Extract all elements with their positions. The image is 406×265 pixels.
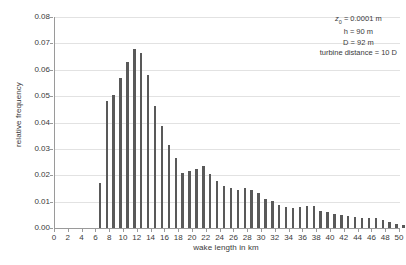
bar xyxy=(368,218,370,228)
x-tick-label: 12 xyxy=(132,234,141,242)
bar xyxy=(388,222,390,228)
y-tick-mark xyxy=(50,202,53,203)
bar xyxy=(147,75,149,228)
x-tick-mark xyxy=(95,229,96,232)
x-tick-label: 10 xyxy=(119,234,128,242)
x-tick-label: 38 xyxy=(312,234,321,242)
y-tick-mark xyxy=(50,228,53,229)
x-tick-label: 0 xyxy=(52,234,56,242)
bar xyxy=(216,181,218,228)
bar xyxy=(112,95,114,228)
x-tick-mark xyxy=(192,229,193,232)
bar xyxy=(237,190,239,228)
bar xyxy=(319,211,321,228)
x-tick-mark xyxy=(275,229,276,232)
bar xyxy=(257,193,259,228)
bar xyxy=(278,205,280,228)
x-tick-mark xyxy=(344,229,345,232)
bar xyxy=(223,186,225,228)
x-tick-mark xyxy=(137,229,138,232)
y-tick-label: 0.04 xyxy=(18,119,50,127)
x-tick-mark xyxy=(109,229,110,232)
bar xyxy=(375,218,377,228)
bar xyxy=(333,214,335,228)
bar xyxy=(250,190,252,228)
bar xyxy=(126,62,128,228)
annotation-line-roughness-length: z0 = 0.0001 m xyxy=(320,14,397,27)
x-tick-mark xyxy=(399,229,400,232)
bar xyxy=(195,169,197,228)
x-tick-mark xyxy=(82,229,83,232)
x-tick-mark xyxy=(289,229,290,232)
bar xyxy=(326,212,328,228)
x-tick-label: 24 xyxy=(215,234,224,242)
x-tick-mark xyxy=(316,229,317,232)
x-tick-mark xyxy=(302,229,303,232)
bar xyxy=(175,158,177,228)
bar xyxy=(133,49,135,228)
x-tick-label: 36 xyxy=(298,234,307,242)
x-axis-tick-labels: 0246810121416182022242628303234363840424… xyxy=(54,229,399,243)
y-tick-mark xyxy=(50,96,53,97)
bar xyxy=(354,217,356,228)
x-tick-label: 40 xyxy=(326,234,335,242)
x-tick-label: 26 xyxy=(229,234,238,242)
bar xyxy=(313,206,315,228)
y-tick-mark xyxy=(50,149,53,150)
bar xyxy=(230,188,232,228)
x-tick-label: 34 xyxy=(284,234,293,242)
x-tick-label: 50 xyxy=(395,234,404,242)
y-tick-mark xyxy=(50,17,53,18)
histogram-figure: relative frequency 0.000.010.020.030.040… xyxy=(0,0,406,265)
bar xyxy=(106,101,108,228)
x-tick-label: 8 xyxy=(107,234,111,242)
annotation-line-hub-height: h = 90 m xyxy=(320,27,397,38)
bar xyxy=(361,218,363,228)
y-tick-label: 0.01 xyxy=(18,198,50,206)
x-tick-mark xyxy=(233,229,234,232)
x-tick-mark xyxy=(123,229,124,232)
x-tick-label: 46 xyxy=(367,234,376,242)
x-tick-mark xyxy=(385,229,386,232)
bar xyxy=(99,183,101,228)
x-tick-label: 4 xyxy=(79,234,83,242)
y-tick-label: 0.05 xyxy=(18,92,50,100)
x-tick-label: 30 xyxy=(257,234,266,242)
x-tick-mark xyxy=(178,229,179,232)
y-tick-label: 0.07 xyxy=(18,39,50,47)
bar xyxy=(202,166,204,228)
x-tick-mark xyxy=(68,229,69,232)
y-tick-mark xyxy=(50,123,53,124)
x-tick-mark xyxy=(164,229,165,232)
y-tick-label: 0.06 xyxy=(18,66,50,74)
x-tick-label: 44 xyxy=(353,234,362,242)
x-tick-mark xyxy=(247,229,248,232)
bar xyxy=(299,207,301,228)
bar xyxy=(271,201,273,228)
x-tick-mark xyxy=(54,229,55,232)
y-axis-tick-labels: 0.000.010.020.030.040.050.060.070.08 xyxy=(18,17,50,228)
annotation-line-rotor-diameter: D = 92 m xyxy=(320,38,397,49)
x-tick-label: 32 xyxy=(270,234,279,242)
bar xyxy=(154,106,156,228)
x-tick-label: 20 xyxy=(188,234,197,242)
bar xyxy=(168,145,170,228)
x-tick-label: 48 xyxy=(381,234,390,242)
bar xyxy=(244,188,246,228)
x-tick-label: 42 xyxy=(339,234,348,242)
y-tick-label: 0.00 xyxy=(18,224,50,232)
y-tick-label: 0.03 xyxy=(18,145,50,153)
bar xyxy=(395,224,397,228)
x-axis-title: wake length in km xyxy=(50,243,402,252)
bar xyxy=(292,208,294,228)
bar xyxy=(285,207,287,228)
x-tick-mark xyxy=(330,229,331,232)
x-tick-mark xyxy=(261,229,262,232)
bar xyxy=(161,126,163,228)
y-tick-mark xyxy=(50,175,53,176)
x-tick-label: 22 xyxy=(201,234,210,242)
x-tick-label: 6 xyxy=(93,234,97,242)
bar xyxy=(340,215,342,228)
bar xyxy=(347,216,349,228)
y-tick-label: 0.08 xyxy=(18,13,50,21)
